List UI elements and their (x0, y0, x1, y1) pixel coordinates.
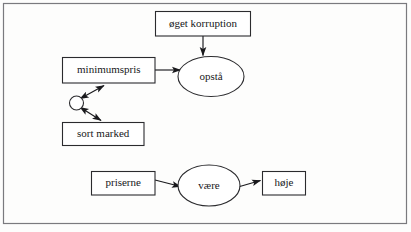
node-vaere[interactable]: være (178, 165, 240, 206)
diagram-canvas: øget korruption minimumspris opstå sort … (0, 0, 411, 232)
node-sort-marked[interactable]: sort marked (63, 123, 145, 146)
node-label: høje (275, 176, 294, 188)
node-minimumspris[interactable]: minimumspris (63, 58, 156, 84)
node-oeget-korruption[interactable]: øget korruption (156, 12, 251, 37)
node-label: øget korruption (169, 17, 238, 29)
node-label: minimumspris (77, 63, 141, 75)
edge-junction-minimumspris (81, 86, 105, 99)
junction-circle (70, 96, 84, 110)
edge-priserne-to-vaere (155, 180, 181, 187)
node-opstaa[interactable]: opstå (178, 57, 244, 97)
node-hoeje[interactable]: høje (263, 172, 306, 196)
edge-junction-sortmarked (81, 108, 102, 121)
edge-vaere-to-hoeje (238, 181, 261, 188)
node-label: sort marked (77, 127, 130, 139)
node-priserne[interactable]: priserne (92, 172, 156, 196)
node-label: opstå (199, 70, 222, 82)
node-label: være (198, 179, 220, 191)
node-junction[interactable] (70, 96, 84, 110)
diagram-svg: øget korruption minimumspris opstå sort … (0, 0, 411, 232)
node-label: priserne (105, 176, 141, 188)
